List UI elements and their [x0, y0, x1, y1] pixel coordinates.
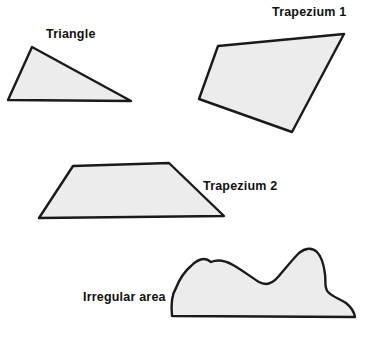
shape-label-trapezium-2: Trapezium 2 — [203, 179, 277, 193]
trapezium-2-shape — [39, 163, 224, 218]
trapezium-1-shape — [199, 34, 344, 132]
shapes-canvas — [0, 0, 378, 358]
shape-label-irregular-area: Irregular area — [83, 290, 166, 304]
shapes-figure: Triangle Trapezium 1 Trapezium 2 Irregul… — [0, 0, 378, 358]
irregular-area-shape — [171, 249, 355, 317]
triangle-shape — [8, 47, 131, 101]
shape-label-trapezium-1: Trapezium 1 — [272, 5, 346, 19]
shape-label-triangle: Triangle — [46, 27, 96, 41]
